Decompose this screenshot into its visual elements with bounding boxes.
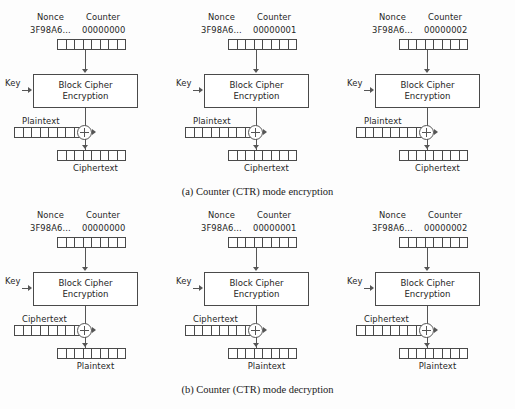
byte-cell (118, 40, 126, 49)
cipher-line-2: Encryption (62, 91, 108, 102)
caption-encryption: (a) Counter (CTR) mode encryption (0, 186, 515, 197)
byte-cell (400, 40, 409, 49)
output-label: Ciphertext (171, 163, 342, 173)
input-label: Plaintext (22, 116, 60, 126)
byte-cell (84, 151, 93, 160)
byte-cell (246, 349, 255, 358)
byte-cell (24, 326, 33, 335)
counter-block-bar (57, 39, 126, 50)
output-block-bar (399, 150, 468, 161)
counter-title-label: Counter (257, 12, 291, 22)
byte-cell (58, 40, 67, 49)
arrow-down-icon (424, 343, 430, 347)
byte-cell (400, 151, 409, 160)
byte-cell (220, 128, 229, 137)
byte-cell (417, 349, 426, 358)
arrow-down-icon (424, 69, 430, 73)
byte-cell (109, 40, 118, 49)
xor-gate-icon (419, 125, 434, 140)
byte-cell (289, 40, 297, 49)
arrow-right-icon (263, 327, 267, 333)
arrow-down-icon (424, 267, 430, 271)
block-cipher-box: Block CipherEncryption (33, 74, 138, 108)
cipher-line-1: Block Cipher (229, 278, 283, 289)
byte-cell (41, 326, 50, 335)
byte-cell (186, 128, 195, 137)
byte-cell (118, 349, 126, 358)
byte-cell (118, 238, 126, 247)
byte-cell (58, 128, 67, 137)
byte-cell (101, 349, 110, 358)
counter-block-bar (228, 237, 297, 248)
byte-cell (229, 238, 238, 247)
byte-cell (203, 326, 212, 335)
byte-cell (32, 326, 41, 335)
counter-value-label: 00000000 (82, 223, 125, 233)
byte-cell (101, 238, 110, 247)
byte-cell (383, 128, 392, 137)
byte-cell (238, 151, 247, 160)
byte-cell (75, 151, 84, 160)
caption-decryption: (b) Counter (CTR) mode decryption (0, 384, 515, 395)
counter-to-cipher-line (256, 50, 257, 70)
nonce-value-label: 3F98A6... (201, 25, 242, 35)
arrow-down-icon (424, 145, 430, 149)
xor-gate-icon (419, 323, 434, 338)
byte-cell (272, 238, 281, 247)
byte-cell (58, 238, 67, 247)
byte-cell (443, 151, 452, 160)
counter-to-cipher-line (427, 50, 428, 70)
xor-gate-icon (77, 323, 92, 338)
nonce-title-label: Nonce (379, 210, 406, 220)
cipher-line-2: Encryption (404, 91, 450, 102)
byte-cell (109, 238, 118, 247)
byte-cell (238, 349, 247, 358)
byte-cell (460, 40, 468, 49)
output-block-bar (399, 348, 468, 359)
input-block-bar (185, 325, 254, 336)
byte-cell (417, 40, 426, 49)
byte-cell (434, 40, 443, 49)
arrow-down-icon (82, 69, 88, 73)
input-label: Plaintext (364, 116, 402, 126)
byte-cell (237, 326, 246, 335)
nonce-value-label: 3F98A6... (372, 25, 413, 35)
byte-cell (366, 326, 375, 335)
byte-cell (212, 128, 221, 137)
byte-cell (58, 349, 67, 358)
block-cipher-box: Block CipherEncryption (375, 272, 480, 306)
byte-cell (67, 349, 76, 358)
output-label: Plaintext (342, 361, 513, 371)
input-block-bar (356, 325, 425, 336)
key-label: Key (347, 276, 362, 286)
ctr-mode-figure: NonceCounter3F98A6...00000000KeyBlock Ci… (0, 0, 515, 409)
byte-cell (426, 40, 435, 49)
byte-cell (229, 128, 238, 137)
byte-cell (220, 326, 229, 335)
counter-block-bar (57, 237, 126, 248)
byte-cell (434, 349, 443, 358)
byte-cell (67, 40, 76, 49)
nonce-title-label: Nonce (37, 12, 64, 22)
byte-cell (58, 151, 67, 160)
byte-cell (24, 128, 33, 137)
byte-cell (32, 128, 41, 137)
arrow-right-icon (92, 129, 96, 135)
input-label: Ciphertext (22, 314, 67, 324)
key-label: Key (347, 78, 362, 88)
byte-cell (460, 238, 468, 247)
byte-cell (408, 128, 417, 137)
nonce-title-label: Nonce (379, 12, 406, 22)
byte-cell (101, 40, 110, 49)
byte-cell (272, 151, 281, 160)
byte-cell (246, 238, 255, 247)
byte-cell (400, 238, 409, 247)
byte-cell (238, 238, 247, 247)
nonce-title-label: Nonce (37, 210, 64, 220)
counter-value-label: 00000002 (424, 223, 467, 233)
counter-value-label: 00000000 (82, 25, 125, 35)
arrow-down-icon (253, 267, 259, 271)
arrow-right-icon (434, 327, 438, 333)
byte-cell (426, 349, 435, 358)
arrow-down-icon (82, 343, 88, 347)
